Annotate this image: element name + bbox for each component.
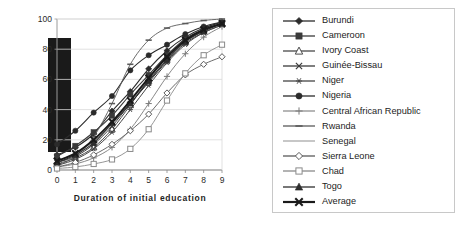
data-point-marker-open-diamond <box>201 61 207 67</box>
data-point-marker-open-square <box>91 161 96 166</box>
series-nigeria <box>54 19 224 147</box>
data-point-marker-filled-square <box>73 143 78 148</box>
x-tick-label: 2 <box>91 175 96 185</box>
y-tick-label: 80 <box>43 44 53 54</box>
legend-label: Burundi <box>322 16 354 25</box>
data-point-marker-plus <box>146 100 152 106</box>
series-line <box>57 22 222 144</box>
series-guin-e-bissau <box>54 22 224 165</box>
legend-label: Togo <box>322 182 342 191</box>
x-tick-label: 8 <box>201 175 206 185</box>
legend-label: Guinée-Bissau <box>322 61 382 70</box>
legend-marker-x-cross-icon <box>281 59 317 73</box>
legend-label: Rwanda <box>322 122 356 131</box>
x-tick-label: 9 <box>220 175 225 185</box>
data-point-marker-open-square <box>296 168 302 174</box>
legend-label: Niger <box>322 76 344 85</box>
data-point-marker-open-square <box>54 166 59 171</box>
x-tick-label: 0 <box>55 175 60 185</box>
x-tick-label: 6 <box>165 175 170 185</box>
data-point-marker-filled-square <box>109 113 114 118</box>
y-tick-label: 100 <box>38 14 52 24</box>
data-point-marker-filled-circle <box>109 93 114 98</box>
legend-marker-open-square-icon <box>281 164 317 178</box>
y-tick-label: 40 <box>43 105 53 115</box>
legend-label: Chad <box>322 167 344 176</box>
data-point-marker-open-square <box>164 98 169 103</box>
legend-item-guin-e-bissau[interactable]: Guinée-Bissau <box>273 58 454 73</box>
series-group <box>54 19 225 171</box>
data-point-marker-filled-square <box>296 33 302 39</box>
data-point-marker-filled-circle <box>183 31 188 36</box>
data-point-marker-filled-circle <box>146 53 151 58</box>
legend-marker-open-triangle-icon <box>281 44 317 58</box>
data-point-marker-open-square <box>73 164 78 169</box>
y-tick-label: 0 <box>47 165 52 175</box>
legend-label: Sierra Leone <box>322 152 375 161</box>
legend-item-cameroon[interactable]: Cameroon <box>273 28 454 43</box>
legend-item-central-african-republic[interactable]: Central African Republic <box>273 104 454 119</box>
legend-label: Nigeria <box>322 91 351 100</box>
legend-marker-filled-square-icon <box>281 29 317 43</box>
legend-item-ivory-coast[interactable]: Ivory Coast <box>273 43 454 58</box>
legend-list: BurundiCameroonIvory CoastGuinée-BissauN… <box>273 13 454 209</box>
chart-legend: BurundiCameroonIvory CoastGuinée-BissauN… <box>272 8 455 213</box>
legend-marker-line-icon <box>281 134 317 148</box>
data-point-marker-plus <box>164 73 170 79</box>
legend-marker-open-diamond-icon <box>281 149 317 163</box>
chart-screenshot: 0204060801000123456789 Duration of initi… <box>0 0 472 225</box>
legend-label: Senegal <box>322 137 356 146</box>
legend-item-nigeria[interactable]: Nigeria <box>273 88 454 103</box>
y-tick-label: 60 <box>43 74 53 84</box>
legend-marker-filled-diamond-icon <box>281 14 317 28</box>
y-tick-label: 20 <box>43 135 53 145</box>
data-point-marker-asterisk <box>296 78 302 83</box>
data-point-marker-filled-circle <box>73 128 78 133</box>
legend-marker-asterisk-icon <box>281 74 317 88</box>
data-point-marker-open-square <box>146 127 151 132</box>
x-tick-label: 1 <box>73 175 78 185</box>
x-tick-label: 4 <box>128 175 133 185</box>
data-point-marker-open-square <box>109 157 114 162</box>
legend-item-chad[interactable]: Chad <box>273 164 454 179</box>
x-tick-label: 3 <box>110 175 115 185</box>
data-point-marker-open-square <box>183 71 188 76</box>
legend-marker-bold-x-icon <box>281 195 317 209</box>
legend-marker-filled-circle-icon <box>281 89 317 103</box>
legend-label: Cameroon <box>322 31 365 40</box>
x-tick-label: 5 <box>146 175 151 185</box>
data-point-marker-filled-circle <box>54 142 59 147</box>
data-point-marker-filled-diamond <box>295 17 302 24</box>
legend-item-sierra-leone[interactable]: Sierra Leone <box>273 149 454 164</box>
legend-item-average[interactable]: Average <box>273 194 454 209</box>
series-niger <box>54 23 224 168</box>
legend-label: Central African Republic <box>322 107 421 116</box>
legend-label: Ivory Coast <box>322 46 368 55</box>
x-tick-label: 7 <box>183 175 188 185</box>
line-chart-svg: 0204060801000123456789 <box>0 0 262 225</box>
data-point-marker-filled-circle <box>164 42 169 47</box>
data-point-marker-open-diamond <box>109 141 115 147</box>
legend-item-togo[interactable]: Togo <box>273 179 454 194</box>
data-point-marker-open-square <box>201 53 206 58</box>
series-line <box>57 25 222 165</box>
data-point-marker-filled-circle <box>296 93 302 99</box>
legend-marker-dash-icon <box>281 119 317 133</box>
data-point-marker-filled-square <box>128 92 133 97</box>
line-chart-panel: 0204060801000123456789 <box>0 0 262 225</box>
legend-label: Average <box>322 197 356 206</box>
data-point-marker-open-diamond <box>295 153 302 160</box>
legend-item-senegal[interactable]: Senegal <box>273 134 454 149</box>
data-point-marker-plus <box>295 108 302 115</box>
x-axis-title: Duration of initial education <box>57 193 223 203</box>
legend-marker-filled-triangle-icon <box>281 180 317 194</box>
data-point-marker-open-square <box>219 42 224 47</box>
legend-item-burundi[interactable]: Burundi <box>273 13 454 28</box>
data-point-marker-open-diamond <box>219 54 225 60</box>
legend-marker-plus-icon <box>281 104 317 118</box>
data-point-marker-open-square <box>128 146 133 151</box>
data-point-marker-filled-circle <box>91 110 96 115</box>
legend-item-rwanda[interactable]: Rwanda <box>273 119 454 134</box>
legend-item-niger[interactable]: Niger <box>273 73 454 88</box>
